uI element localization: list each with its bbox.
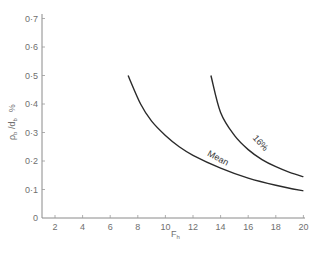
x-tick-label: 6 [108, 222, 113, 232]
curve-label: 16% [251, 133, 270, 153]
x-tick-label: 12 [188, 222, 198, 232]
x-tick-label: 2 [52, 222, 57, 232]
y-tick-label: 0·7 [25, 14, 38, 24]
y-tick-label: 0·5 [25, 71, 38, 81]
x-axis-title: Fh [171, 229, 180, 240]
y-tick-label: 0·2 [25, 156, 38, 166]
y-tick-label: 0·6 [25, 42, 38, 52]
axes [42, 14, 305, 218]
x-tick-label: 4 [80, 222, 85, 232]
y-axis-title: ρb /db% [7, 104, 18, 140]
y-tick-label: 0 [33, 213, 38, 223]
chart: 00·10·20·30·40·50·60·7 2468101214161820 … [0, 0, 323, 255]
curves [128, 76, 303, 191]
curve-label: Mean [206, 148, 231, 167]
x-tick-label: 18 [271, 222, 281, 232]
curve-mean [128, 76, 303, 191]
y-tick-label: 0·1 [25, 185, 38, 195]
x-tick-label: 16 [243, 222, 253, 232]
x-tick-label: 20 [298, 222, 308, 232]
x-tick-label: 14 [216, 222, 226, 232]
y-tick-label: 0·3 [25, 128, 38, 138]
x-tick-label: 10 [160, 222, 170, 232]
curve-labels: Mean16% [206, 133, 270, 168]
x-tick-label: 8 [135, 222, 140, 232]
y-tick-label: 0·4 [25, 99, 38, 109]
